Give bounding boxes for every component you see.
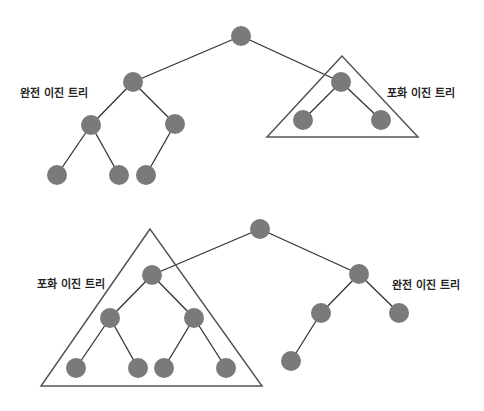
tree-edge (241, 36, 341, 82)
tree-edge (133, 36, 241, 82)
tree-node (231, 26, 251, 46)
tree-node (128, 358, 148, 378)
tree-node (281, 351, 301, 371)
bottom-tree (41, 219, 409, 386)
tree-node (250, 219, 270, 239)
tree-node (136, 165, 156, 185)
tree-node (293, 110, 313, 130)
label-complete-binary-tree-bottom: 완전 이진 트리 (392, 276, 460, 292)
tree-node (142, 265, 162, 285)
tree-node (371, 110, 391, 130)
tree-node (349, 264, 369, 284)
tree-node (66, 358, 86, 378)
label-full-binary-tree-top: 포화 이진 트리 (387, 84, 455, 100)
label-complete-binary-tree-top: 완전 이진 트리 (20, 84, 88, 100)
tree-edge (152, 229, 260, 275)
tree-node (81, 115, 101, 135)
tree-node (184, 308, 204, 328)
tree-node (47, 165, 67, 185)
tree-node (331, 72, 351, 92)
tree-edge (260, 229, 359, 274)
tree-node (165, 114, 185, 134)
top-tree (47, 26, 418, 185)
tree-node (216, 358, 236, 378)
binary-tree-diagram (0, 0, 484, 411)
tree-node (123, 72, 143, 92)
tree-node (109, 165, 129, 185)
tree-node (311, 303, 331, 323)
tree-node (100, 308, 120, 328)
tree-node (389, 303, 409, 323)
tree-node (154, 358, 174, 378)
label-full-binary-tree-bottom: 포화 이진 트리 (37, 275, 105, 291)
